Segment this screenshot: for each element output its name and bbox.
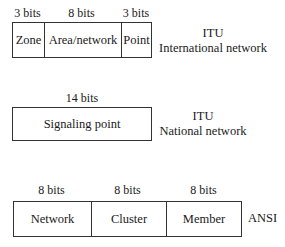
itu-international-label: ITU International network [158, 26, 268, 56]
cluster-field: Cluster [91, 202, 166, 236]
area-network-bits-label: 8 bits [43, 6, 120, 20]
itu-international-title: ITU [158, 26, 268, 41]
itu-international-subtitle: International network [158, 41, 268, 56]
itu-national-subtitle: National network [158, 124, 248, 139]
itu-international-box: Zone Area/network Point [12, 22, 152, 58]
ansi-box: Network Cluster Member [13, 201, 242, 237]
itu-national-box: Signaling point [12, 107, 152, 141]
network-bits-label: 8 bits [13, 183, 90, 197]
itu-national-title: ITU [158, 109, 248, 124]
signaling-point-field: Signaling point [13, 108, 151, 140]
signaling-point-bits-label: 14 bits [12, 91, 152, 105]
member-field: Member [166, 202, 241, 236]
zone-field: Zone [13, 23, 44, 57]
zone-bits-label: 3 bits [12, 6, 43, 20]
network-field: Network [14, 202, 91, 236]
cluster-bits-label: 8 bits [90, 183, 165, 197]
itu-national-label: ITU National network [158, 109, 248, 139]
ansi-label: ANSI [248, 211, 277, 226]
area-network-field: Area/network [44, 23, 121, 57]
point-field: Point [121, 23, 151, 57]
point-bits-label: 3 bits [120, 6, 152, 20]
member-bits-label: 8 bits [165, 183, 242, 197]
